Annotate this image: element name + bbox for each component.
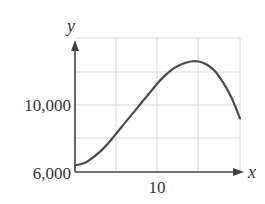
chart: y x 10,000 6,000 10 (0, 0, 265, 204)
x-tick-10: 10 (149, 178, 166, 197)
x-axis-label: x (247, 162, 256, 182)
y-axis-arrow-icon (71, 40, 79, 51)
x-axis-arrow-icon (233, 168, 244, 176)
y-tick-6000: 6,000 (33, 164, 71, 183)
y-tick-10000: 10,000 (24, 96, 71, 115)
y-axis-label: y (65, 16, 75, 36)
